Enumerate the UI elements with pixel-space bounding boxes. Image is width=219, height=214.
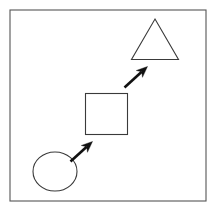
shape-sequence-diagram: Shape progression diagram: [0, 0, 219, 214]
square-shape[interactable]: [86, 94, 128, 135]
circle-shape[interactable]: [33, 152, 77, 191]
diagram-canvas: Shape progression diagram: [0, 0, 219, 214]
